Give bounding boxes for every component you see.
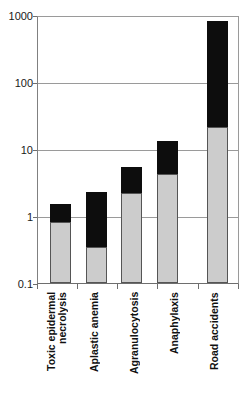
x-label-agranulocytosis: Agranulocytosis — [129, 292, 141, 392]
x-label-toxic-epidermal-necrolysis: Toxic epidermal necrolysis — [46, 292, 70, 392]
y-tick-label-10: 10 — [21, 145, 33, 156]
bar-segment-lower — [207, 127, 228, 283]
y-tick-label-0.1: 0.1 — [18, 279, 33, 290]
x-label-anaphylaxis: Anaphylaxis — [169, 292, 181, 392]
bar-segment-lower — [121, 193, 142, 283]
bar-segment-upper — [207, 21, 228, 127]
bar-agranulocytosis[interactable] — [121, 16, 142, 283]
bar-segment-upper — [50, 204, 71, 222]
x-label-road-accidents: Road accidents — [209, 292, 221, 392]
x-label-aplastic-anemia: Aplastic anemia — [89, 292, 101, 392]
bar-segment-lower — [50, 222, 71, 283]
bar-aplastic-anemia[interactable] — [86, 16, 107, 283]
bar-toxic-epidermal-necrolysis[interactable] — [50, 16, 71, 283]
y-axis: 1000 100 10 1 0.1 — [0, 0, 33, 396]
x-tick-mark-3 — [157, 284, 158, 289]
x-tick-mark-1 — [77, 284, 78, 289]
bar-segment-upper — [157, 141, 178, 174]
bar-segment-upper — [121, 167, 142, 193]
bar-segment-upper — [86, 192, 107, 247]
x-tick-mark-0 — [37, 284, 38, 289]
chart-container: 1000 100 10 1 0.1 — [0, 0, 248, 396]
plot-area — [37, 16, 239, 284]
bar-segment-lower — [157, 174, 178, 283]
x-tick-mark-5 — [238, 284, 239, 289]
y-tick-label-1000: 1000 — [9, 11, 33, 22]
x-tick-mark-2 — [117, 284, 118, 289]
bar-anaphylaxis[interactable] — [157, 16, 178, 283]
y-tick-label-100: 100 — [15, 78, 33, 89]
x-tick-mark-4 — [198, 284, 199, 289]
bar-road-accidents[interactable] — [207, 16, 228, 283]
bar-segment-lower — [86, 247, 107, 283]
